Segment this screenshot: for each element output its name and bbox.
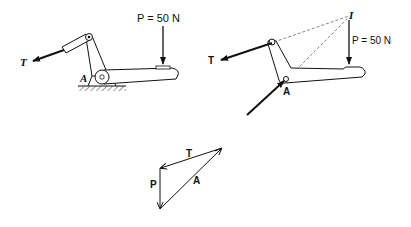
force-a-arrow (247, 81, 284, 115)
label-a: A (79, 72, 87, 84)
label-p: P = 50 N (137, 12, 180, 24)
pedal-pad (156, 66, 170, 69)
label-t: T (186, 148, 192, 159)
force-t-arrow (221, 43, 272, 60)
pivot-a (284, 77, 289, 82)
label-a: A (193, 175, 200, 186)
label-p: P = 50 N (352, 35, 391, 46)
label-i: I (348, 9, 354, 21)
label-t: T (208, 55, 214, 66)
right-free-body-diagram: T A I P = 50 N (208, 9, 391, 115)
left-mechanism: T A P = 50 N (20, 12, 180, 91)
label-p: P (150, 179, 157, 190)
force-triangle: T P A (150, 148, 222, 209)
label-a: A (283, 86, 290, 97)
diagram-canvas: T A P = 50 N T A I P = 50 N T P A (0, 0, 411, 227)
pedal-lever (104, 68, 178, 84)
lever-body (268, 40, 365, 84)
label-t: T (20, 56, 28, 68)
force-t-arrow (33, 50, 64, 61)
dashed-line-t (274, 16, 349, 42)
